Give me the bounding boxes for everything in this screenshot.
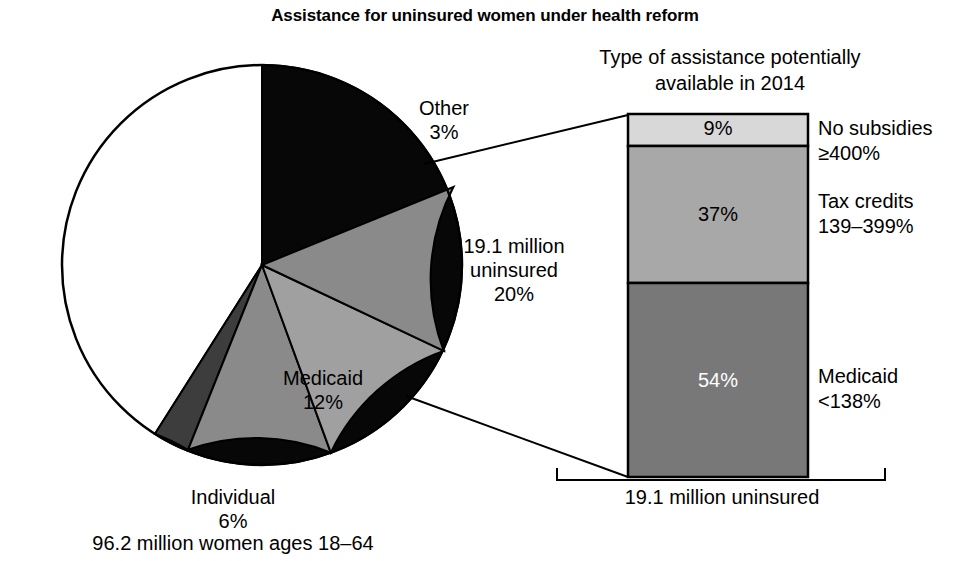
pie-label-other: Other 3% — [396, 96, 492, 144]
pie-callout-uninsured: 19.1 million uninsured 20% — [434, 234, 594, 306]
pie-label-employer: Employer 59% — [108, 222, 258, 270]
bar-segment-value-no-subsidies: 9% — [628, 117, 808, 140]
chart-figure: Assistance for uninsured women under hea… — [0, 0, 970, 561]
bar-segment-value-tax-credits: 37% — [628, 203, 808, 226]
bar-legend-no-subsidies: No subsidies ≥400% — [818, 116, 933, 166]
stacked-bar — [628, 114, 808, 477]
bar-legend-tax-credits: Tax credits 139–399% — [818, 189, 914, 239]
pie-label-medicaid: Medicaid 12% — [248, 366, 398, 414]
bar-segment-value-medicaid: 54% — [628, 369, 808, 392]
pie-label-individual: Individual 6% — [138, 485, 328, 533]
pie-footnote: 96.2 million women ages 18–64 — [18, 531, 448, 555]
bar-axis-caption: 19.1 million uninsured — [546, 486, 898, 509]
bar-panel-title: Type of assistance potentially available… — [562, 44, 898, 96]
bar-legend-medicaid: Medicaid <138% — [818, 364, 898, 414]
